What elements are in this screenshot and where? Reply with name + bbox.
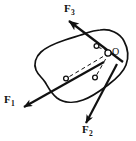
force-diagram-canvas <box>0 0 136 141</box>
force-label-f1: F1 <box>4 94 14 105</box>
rigid-body-outline <box>35 30 128 103</box>
force-diagram-figure: F3 F1 F2 O <box>0 0 136 141</box>
application-point-f2-marker <box>93 75 98 80</box>
force-label-f3-base: F <box>64 2 71 14</box>
application-point-f3-marker <box>94 44 99 49</box>
force-label-f1-subscript: 1 <box>11 99 15 108</box>
force-label-f3-subscript: 3 <box>71 8 75 17</box>
force-label-f3: F3 <box>64 3 74 14</box>
force-label-f2-subscript: 2 <box>89 129 93 138</box>
force-label-f2-base: F <box>82 123 89 135</box>
application-point-f1-marker <box>64 76 69 81</box>
point-o-marker <box>105 50 111 56</box>
force-label-f1-base: F <box>4 93 11 105</box>
point-label-o: O <box>112 47 119 57</box>
force-label-f2: F2 <box>82 124 92 135</box>
